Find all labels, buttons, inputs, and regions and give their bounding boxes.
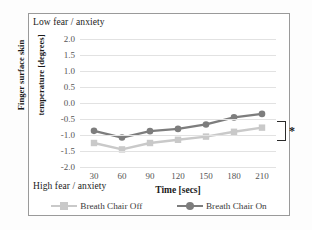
data-point-marker xyxy=(91,128,98,135)
legend-marker-square xyxy=(60,202,68,210)
legend-item[interactable]: Breath Chair Off xyxy=(51,201,142,211)
data-point-marker xyxy=(203,121,210,128)
gridline xyxy=(80,55,276,56)
gridline xyxy=(80,103,276,104)
x-axis-tick-label: 210 xyxy=(255,171,269,181)
legend-swatch xyxy=(51,202,77,210)
y-axis-tick-label: -1.0 xyxy=(61,130,75,140)
legend: Breath Chair OffBreath Chair On xyxy=(34,201,284,211)
y-axis-tick-label: 0.0 xyxy=(64,98,75,108)
y-axis-title-line2: temperature [degrees] xyxy=(36,34,46,115)
x-axis-title: Time [secs] xyxy=(80,185,276,195)
gridline xyxy=(80,119,276,120)
gridline xyxy=(80,71,276,72)
x-axis-tick-label: 150 xyxy=(199,171,213,181)
y-axis-title: Finger surface skin temperature [degrees… xyxy=(6,13,46,137)
gridline xyxy=(80,87,276,88)
gridline xyxy=(80,135,276,136)
legend-label: Breath Chair On xyxy=(206,201,267,211)
x-axis-tick-label: 30 xyxy=(90,171,99,181)
y-axis-tick-label: 0.5 xyxy=(64,82,75,92)
y-axis-tick-label: -2.0 xyxy=(61,162,75,172)
gridline xyxy=(80,151,276,152)
data-point-marker xyxy=(175,126,182,133)
data-point-marker xyxy=(175,137,181,143)
gridline xyxy=(80,39,276,40)
data-point-marker xyxy=(259,111,266,118)
legend-swatch xyxy=(177,202,203,210)
data-point-marker xyxy=(147,128,154,135)
y-axis-title-line1: Finger surface skin xyxy=(16,40,26,111)
legend-label: Breath Chair Off xyxy=(80,201,142,211)
legend-marker-circle xyxy=(186,202,194,210)
y-axis-tick-label: 1.5 xyxy=(64,50,75,60)
chart-figure: Low fear / anxiety High fear / anxiety F… xyxy=(0,0,312,230)
data-point-marker xyxy=(259,124,265,130)
x-axis-tick-label: 120 xyxy=(171,171,185,181)
y-axis-tick-label: 2.0 xyxy=(64,34,75,44)
significance-bracket xyxy=(277,121,286,141)
y-axis-tick-label: 1.0 xyxy=(64,66,75,76)
y-axis-tick-label: -1.5 xyxy=(61,146,75,156)
significance-asterisk: * xyxy=(289,121,295,141)
x-axis-tick-label: 60 xyxy=(118,171,127,181)
legend-item[interactable]: Breath Chair On xyxy=(177,201,267,211)
x-axis-tick-label: 90 xyxy=(146,171,155,181)
data-point-marker xyxy=(147,140,153,146)
series-breath-chair-on xyxy=(91,111,266,141)
y-axis-tick-label: -0.5 xyxy=(61,114,75,124)
data-point-marker xyxy=(91,140,97,146)
plot-area: 2.01.51.00.50.0-0.5-1.0-1.5-2.0 30609012… xyxy=(80,39,276,167)
gridline xyxy=(80,167,276,168)
x-axis-tick-label: 180 xyxy=(227,171,241,181)
